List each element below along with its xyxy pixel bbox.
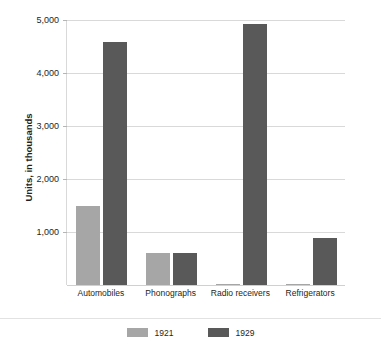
x-axis-label-automobiles: Automobiles	[66, 288, 136, 299]
legend-swatch-1921	[127, 328, 148, 337]
bar-radio-receivers-1929	[243, 24, 267, 285]
bar-automobiles-1921	[76, 206, 100, 286]
bar-automobiles-1929	[103, 42, 127, 285]
plot-area: 1,0002,0003,0004,0005,000	[66, 20, 345, 285]
bar-chart: Units, in thousands 1,0002,0003,0004,000…	[0, 0, 381, 345]
x-axis-label-refrigerators: Refrigerators	[275, 288, 345, 299]
x-axis-labels: AutomobilesPhonographsRadio receiversRef…	[66, 288, 345, 318]
y-axis-title: Units, in thousands	[23, 68, 34, 248]
legend-item-1929[interactable]: 1929	[208, 328, 255, 338]
x-axis-label-radio-receivers: Radio receivers	[206, 288, 276, 299]
x-axis-label-phonographs: Phonographs	[136, 288, 206, 299]
legend-label-1921: 1921	[155, 328, 174, 338]
y-tick-label: 1,000	[36, 227, 59, 237]
axis-baseline	[67, 285, 345, 286]
y-tick-label: 2,000	[36, 174, 59, 184]
y-tick-label: 4,000	[36, 68, 59, 78]
legend-label-1929: 1929	[236, 328, 255, 338]
chart-legend: 19211929	[0, 318, 381, 345]
bar-phonographs-1929	[173, 253, 197, 285]
bars-layer	[67, 20, 345, 285]
legend-item-1921[interactable]: 1921	[127, 328, 174, 338]
bar-refrigerators-1929	[313, 238, 337, 285]
y-tick-label: 5,000	[36, 15, 59, 25]
bar-phonographs-1921	[146, 253, 170, 285]
bar-radio-receivers-1921	[216, 284, 240, 286]
legend-swatch-1929	[208, 328, 229, 337]
y-tick-label: 3,000	[36, 121, 59, 131]
bar-refrigerators-1921	[286, 284, 310, 286]
